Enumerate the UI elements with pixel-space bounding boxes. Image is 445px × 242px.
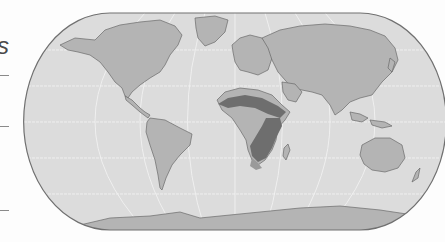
- world-map: [0, 0, 445, 242]
